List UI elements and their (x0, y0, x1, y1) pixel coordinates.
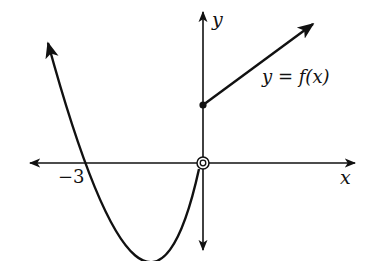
closed-point-marker (199, 101, 206, 108)
parabola-curve (48, 43, 199, 261)
open-point-inner-ring (200, 160, 206, 166)
function-graph (0, 0, 371, 261)
tick-label-neg3: −3 (58, 166, 85, 187)
function-label: y = f(x) (262, 66, 330, 87)
ray-line (203, 24, 313, 105)
y-axis-label: y (212, 8, 223, 30)
x-axis-label: x (340, 166, 351, 188)
